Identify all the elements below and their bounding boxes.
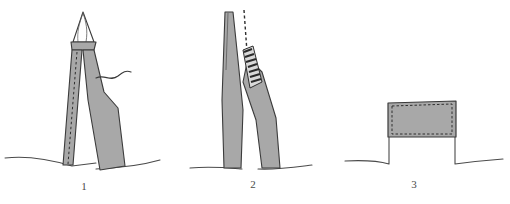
- figure-caption-2: 2: [243, 178, 263, 190]
- trunk-collar: [71, 42, 96, 50]
- figure-caption-1: 1: [74, 180, 94, 192]
- stump-block: [388, 101, 456, 137]
- technical-illustration: [0, 0, 510, 204]
- figure-caption-3: 3: [404, 178, 424, 190]
